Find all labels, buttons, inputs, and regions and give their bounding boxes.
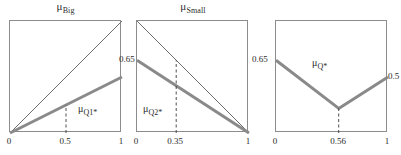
x-tick-1-mu-small: 0.35 xyxy=(167,136,183,146)
y-label-065-mu-small: 0.65 xyxy=(119,54,135,64)
x-tick-0-mu-small: 0 xyxy=(134,136,139,146)
curve-label-mu-q1-star: μQ1* xyxy=(78,103,97,118)
plot-frame-mu-q-star xyxy=(275,20,387,132)
x-tick-0-mu-big: 0 xyxy=(7,136,12,146)
curve-label-mu-subscript: Q1* xyxy=(83,108,97,117)
line-mu-q2-star xyxy=(137,60,249,133)
x-tick-2-mu-q-star: 1 xyxy=(385,136,390,146)
figure-container: μBig μQ1* 0 0.5 1 μSmall xyxy=(0,0,401,155)
curve-label-mu-q2-star: μQ2* xyxy=(143,103,162,118)
plot-curves-mu-q-star xyxy=(276,21,388,133)
panel-mu-small: μSmall 0.65 μQ2* 0 0.35 1 xyxy=(131,0,255,155)
x-tick-0-mu-q-star: 0 xyxy=(273,136,278,146)
x-tick-2-mu-big: 1 xyxy=(119,136,124,146)
y-label-05-mu-q-star: 0.5 xyxy=(388,71,399,81)
curve-label-mu-q-star: μQ* xyxy=(312,57,327,72)
curve-label-mu-subscript: Q2* xyxy=(148,108,162,117)
plot-frame-mu-big xyxy=(9,20,121,132)
x-tick-1-mu-q-star: 0.56 xyxy=(330,136,346,146)
panel-mu-q-star: 0.65 0.5 μQ* 0 0.56 1 xyxy=(255,0,401,155)
panel-title-mu-small: μSmall xyxy=(131,0,255,17)
curve-label-mu-subscript: Q* xyxy=(317,62,327,71)
panel-mu-big: μBig μQ1* 0 0.5 1 xyxy=(0,0,131,155)
x-tick-2-mu-small: 1 xyxy=(246,136,251,146)
y-label-065-mu-q-star: 0.65 xyxy=(252,54,268,64)
panel-title-mu-subscript: Big xyxy=(63,6,75,15)
line-mu-q-star xyxy=(276,60,388,108)
plot-curves-mu-big xyxy=(10,21,122,133)
panel-title-mu-big: μBig xyxy=(0,0,131,17)
panel-title-mu-subscript: Small xyxy=(186,6,205,15)
x-tick-1-mu-big: 0.5 xyxy=(59,136,70,146)
